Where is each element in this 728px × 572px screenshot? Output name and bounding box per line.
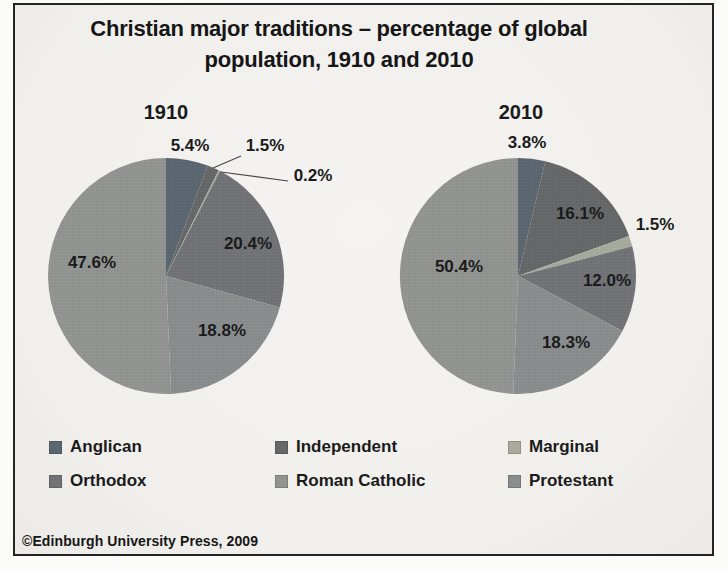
slice-label-orthodox-1910: 20.4% — [224, 234, 272, 253]
legend-item-anglican: Anglican — [49, 437, 142, 457]
pie-2010: 3.8%16.1%1.5%12.0%18.3%50.4% — [400, 133, 674, 394]
legend-swatch-orthodox — [49, 475, 62, 488]
copyright-text: ©Edinburgh University Press, 2009 — [22, 533, 258, 549]
legend-label-independent: Independent — [296, 437, 397, 457]
slice-label-independent-2010: 16.1% — [556, 204, 604, 223]
slice-label-marginal-1910: 0.2% — [294, 166, 333, 185]
slice-label-marginal-2010: 1.5% — [636, 215, 675, 234]
legend-swatch-roman_catholic — [275, 475, 288, 488]
legend-swatch-anglican — [49, 441, 62, 454]
slice-label-anglican-2010: 3.8% — [508, 133, 547, 152]
slice-label-roman_catholic-2010: 50.4% — [435, 257, 483, 276]
legend-item-marginal: Marginal — [508, 437, 599, 457]
legend-item-protestant: Protestant — [508, 471, 613, 491]
legend-swatch-independent — [275, 441, 288, 454]
slice-label-anglican-1910: 5.4% — [171, 136, 210, 155]
legend-item-orthodox: Orthodox — [49, 471, 147, 491]
slice-label-orthodox-2010: 12.0% — [583, 271, 631, 290]
legend-item-independent: Independent — [275, 437, 397, 457]
slice-label-protestant-2010: 18.3% — [542, 333, 590, 352]
page: { "title": { "line1": "Christian major t… — [0, 0, 728, 572]
leader-line-independent-1910 — [213, 156, 241, 168]
legend-swatch-protestant — [508, 475, 521, 488]
legend-swatch-marginal — [508, 441, 521, 454]
slice-label-roman_catholic-1910: 47.6% — [68, 253, 116, 272]
legend-item-roman_catholic: Roman Catholic — [275, 471, 425, 491]
slice-label-independent-1910: 1.5% — [246, 136, 285, 155]
halftone-texture — [48, 158, 284, 394]
slice-label-protestant-1910: 18.8% — [198, 321, 246, 340]
legend-label-orthodox: Orthodox — [70, 471, 147, 491]
legend-label-marginal: Marginal — [529, 437, 599, 457]
legend-label-anglican: Anglican — [70, 437, 142, 457]
pie-1910: 5.4%1.5%0.2%20.4%18.8%47.6% — [48, 136, 332, 394]
legend-label-protestant: Protestant — [529, 471, 613, 491]
legend-label-roman_catholic: Roman Catholic — [296, 471, 425, 491]
